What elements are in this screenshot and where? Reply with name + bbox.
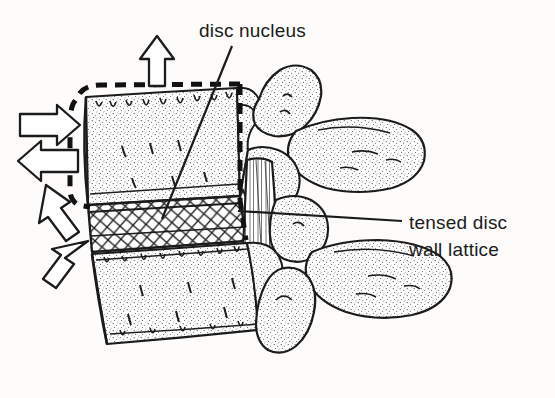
label-disc-nucleus: disc nucleus (199, 17, 306, 44)
upper-vertebral-body (84, 88, 240, 205)
lower-vertebral-body (92, 243, 259, 344)
label-tensed-disc-wall-lattice: tensed discwall lattice (409, 209, 507, 263)
illustration-page: disc nucleus tensed discwall lattice (0, 0, 555, 398)
label-tensed-line-2: wall lattice (409, 239, 499, 260)
upper-spinous-process (288, 118, 425, 192)
anatomy-illustration (0, 0, 555, 398)
label-tensed-line-1: tensed disc (409, 212, 507, 233)
